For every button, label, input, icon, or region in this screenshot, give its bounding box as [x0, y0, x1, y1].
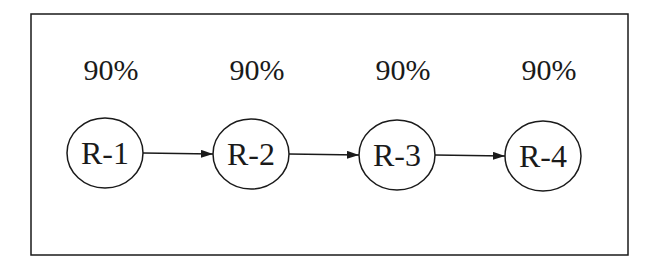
node-r-4: R-4	[505, 121, 581, 191]
flow-diagram: R-1R-2R-3R-4 90%90%90%90%	[0, 0, 651, 269]
node-r-3: R-3	[359, 120, 435, 190]
node-label: R-4	[519, 138, 567, 174]
percent-label-r-2: 90%	[230, 53, 285, 86]
percent-label-r-1: 90%	[84, 53, 139, 86]
arrow-R-3-to-R-4	[435, 155, 505, 156]
percent-label-r-4: 90%	[522, 53, 577, 86]
node-r-2: R-2	[213, 119, 289, 189]
node-label: R-1	[81, 135, 129, 171]
arrow-R-2-to-R-3	[289, 154, 359, 155]
arrow-R-1-to-R-2	[143, 153, 213, 154]
node-r-1: R-1	[67, 118, 143, 188]
node-label: R-2	[227, 136, 275, 172]
node-label: R-3	[373, 137, 421, 173]
percent-label-r-3: 90%	[376, 53, 431, 86]
